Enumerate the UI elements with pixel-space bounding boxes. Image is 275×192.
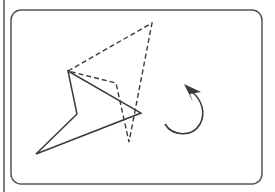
- original-shape-solid: [36, 71, 141, 154]
- rotation-arrow-icon: [165, 84, 203, 134]
- rotated-shape-dashed: [68, 23, 152, 142]
- rotation-diagram: [0, 0, 275, 192]
- diagram-frame: [11, 10, 262, 184]
